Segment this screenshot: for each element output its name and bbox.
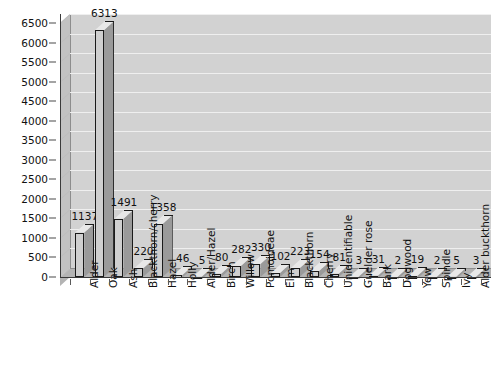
y-axis-tick-mark: [49, 42, 56, 43]
x-axis-tick-mark: [344, 279, 345, 285]
x-axis-tick-mark: [70, 279, 71, 285]
x-axis-category-label: Blackthorn/cherry: [148, 195, 159, 288]
x-axis-tick-mark: [364, 279, 365, 285]
x-axis-tick-mark: [324, 279, 325, 285]
y-axis-tick-mark: [49, 257, 56, 258]
y-axis-tick-mark: [49, 120, 56, 121]
x-axis-category-label: Alder buckthorn: [480, 204, 491, 288]
x-axis-tick-mark: [403, 279, 404, 285]
bar: [0, 0, 504, 379]
x-axis-tick-mark: [109, 279, 110, 285]
x-axis-tick-mark: [187, 279, 188, 285]
bar-chart: 0500100015002000250030003500400045005000…: [0, 0, 504, 379]
y-axis-tick-mark: [49, 81, 56, 82]
x-axis-tick-mark: [148, 279, 149, 285]
x-axis-tick-mark: [442, 279, 443, 285]
y-axis-line: [60, 14, 61, 277]
x-axis-tick-mark: [90, 279, 91, 285]
y-axis-tick-mark: [49, 62, 56, 63]
x-axis-line: [60, 277, 491, 278]
y-axis-tick-mark: [49, 198, 56, 199]
y-axis-tick-mark: [49, 277, 56, 278]
y-axis-tick-mark: [49, 101, 56, 102]
x-axis-tick-mark: [168, 279, 169, 285]
y-axis-tick-mark: [49, 140, 56, 141]
y-axis-tick-mark: [49, 159, 56, 160]
y-axis-tick-mark: [49, 179, 56, 180]
x-axis-tick-mark: [246, 279, 247, 285]
x-axis-tick-mark: [383, 279, 384, 285]
x-axis-tick-mark: [227, 279, 228, 285]
x-axis-tick-mark: [129, 279, 130, 285]
x-axis-tick-mark: [285, 279, 286, 285]
x-axis-tick-mark: [461, 279, 462, 285]
x-axis-tick-mark: [207, 279, 208, 285]
y-axis-tick-mark: [49, 23, 56, 24]
bar-value-label: 3: [454, 255, 498, 266]
y-axis-tick-mark: [49, 237, 56, 238]
y-axis-tick-mark: [49, 218, 56, 219]
x-axis-tick-mark: [481, 279, 482, 285]
x-axis-tick-mark: [422, 279, 423, 285]
x-axis-tick-mark: [266, 279, 267, 285]
x-axis-tick-mark: [305, 279, 306, 285]
